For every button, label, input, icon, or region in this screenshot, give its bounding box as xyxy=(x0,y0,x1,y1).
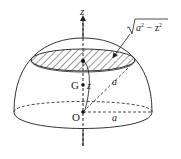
centroid-label: G xyxy=(71,79,79,91)
slice-radius-label: a2 − z2 xyxy=(136,22,162,33)
origin-point xyxy=(81,110,85,114)
slice-center-point xyxy=(81,59,85,63)
height-label: z xyxy=(86,80,91,91)
hemisphere-diagram: z a2 − z2 G z a O a xyxy=(0,0,181,159)
origin-label: O xyxy=(72,111,80,123)
z-axis-label: z xyxy=(79,5,85,17)
centroid-point xyxy=(81,83,85,87)
base-radius-label: a xyxy=(112,112,117,123)
slant-radius-label: a xyxy=(112,76,117,87)
